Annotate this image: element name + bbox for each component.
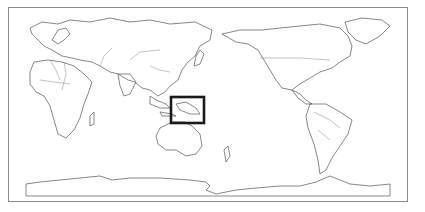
central-america-outline (292, 90, 312, 104)
japan-outline (194, 50, 204, 66)
madagascar-outline (90, 112, 94, 126)
africa-outline (30, 60, 92, 138)
greenland-outline (345, 18, 390, 44)
antarctica-outline (26, 176, 390, 196)
highlight-box (171, 97, 204, 123)
world-map (0, 0, 425, 212)
scandinavia-outline (52, 28, 70, 44)
australia-outline (156, 122, 202, 156)
india-outline (118, 74, 136, 96)
north-america-outline (222, 24, 352, 90)
eurasia-outline (30, 18, 212, 96)
new-guinea-outline (176, 102, 200, 114)
new-zealand-outline (224, 146, 230, 162)
